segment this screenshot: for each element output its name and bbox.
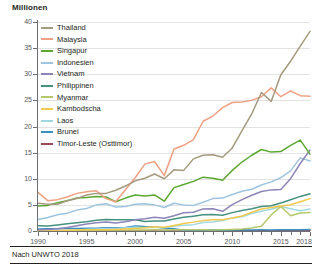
y-tick-mark bbox=[33, 153, 37, 154]
x-tick-label: 2005 bbox=[170, 238, 198, 245]
x-tick-mark bbox=[261, 232, 262, 235]
legend-item[interactable]: Timor-Leste (Osttimor) bbox=[41, 138, 132, 150]
y-tick-mark bbox=[33, 100, 37, 101]
x-tick-mark bbox=[77, 232, 78, 235]
y-tick-label: 10 bbox=[8, 175, 32, 182]
legend-item[interactable]: Philippinen bbox=[41, 80, 132, 92]
legend-color-swatch bbox=[41, 120, 53, 122]
x-tick-mark bbox=[96, 232, 97, 235]
x-tick-mark bbox=[291, 232, 292, 235]
x-tick-mark bbox=[106, 232, 107, 235]
x-tick-mark bbox=[48, 232, 49, 235]
x-tick-mark bbox=[38, 232, 39, 236]
y-tick-label: 20 bbox=[8, 123, 32, 130]
y-tick-mark bbox=[33, 48, 37, 49]
legend-color-swatch bbox=[41, 50, 53, 52]
legend-item-label: Vietnam bbox=[57, 70, 84, 78]
x-tick-mark bbox=[223, 232, 224, 235]
y-tick-mark bbox=[33, 127, 37, 128]
legend-color-swatch bbox=[41, 108, 53, 110]
y-tick-label: 40 bbox=[8, 18, 32, 25]
legend-color-swatch bbox=[41, 73, 53, 75]
x-tick-mark bbox=[310, 232, 311, 236]
y-tick-mark bbox=[33, 22, 37, 23]
x-tick-mark bbox=[281, 232, 282, 236]
legend-item[interactable]: Brunei bbox=[41, 126, 132, 138]
y-tick-mark bbox=[33, 231, 37, 232]
legend-item[interactable]: Myanmar bbox=[41, 92, 132, 104]
source-note: Nach UNWTO 2018 bbox=[12, 250, 79, 259]
x-tick-mark bbox=[116, 232, 117, 235]
x-tick-mark bbox=[193, 232, 194, 235]
x-tick-mark bbox=[135, 232, 136, 236]
y-tick-label: 25 bbox=[8, 96, 32, 103]
y-tick-label: 30 bbox=[8, 70, 32, 77]
chart-legend: ThailandMalaysiaSingapurIndonesienVietna… bbox=[41, 22, 132, 150]
y-axis-line bbox=[37, 20, 38, 231]
x-tick-mark bbox=[145, 232, 146, 235]
legend-color-swatch bbox=[41, 131, 53, 133]
y-tick-label: 35 bbox=[8, 44, 32, 51]
legend-color-swatch bbox=[41, 62, 53, 64]
x-tick-mark bbox=[67, 232, 68, 235]
x-tick-label: 2018 bbox=[290, 238, 318, 245]
legend-color-swatch bbox=[41, 85, 53, 87]
x-tick-mark bbox=[271, 232, 272, 235]
legend-item-label: Kambodscha bbox=[57, 105, 101, 113]
footer-divider-top bbox=[10, 246, 312, 247]
x-tick-mark bbox=[213, 232, 214, 235]
y-tick-label: 0 bbox=[8, 227, 32, 234]
x-tick-mark bbox=[164, 232, 165, 235]
x-tick-mark bbox=[203, 232, 204, 235]
legend-item-label: Brunei bbox=[57, 128, 79, 136]
legend-item[interactable]: Kambodscha bbox=[41, 103, 132, 115]
legend-item[interactable]: Indonesien bbox=[41, 57, 132, 69]
y-tick-label: 15 bbox=[8, 149, 32, 156]
x-tick-mark bbox=[184, 232, 185, 236]
legend-color-swatch bbox=[41, 143, 53, 145]
y-tick-label: 5 bbox=[8, 201, 32, 208]
x-tick-mark bbox=[252, 232, 253, 235]
x-tick-label: 1995 bbox=[73, 238, 101, 245]
legend-color-swatch bbox=[41, 38, 53, 40]
legend-item-label: Thailand bbox=[57, 24, 86, 32]
legend-item-label: Malaysia bbox=[57, 36, 87, 44]
x-tick-label: 1990 bbox=[24, 238, 52, 245]
legend-item[interactable]: Vietnam bbox=[41, 68, 132, 80]
legend-item-label: Laos bbox=[57, 117, 73, 125]
x-tick-mark bbox=[155, 232, 156, 235]
y-tick-mark bbox=[33, 74, 37, 75]
x-tick-mark bbox=[300, 232, 301, 235]
chart-page: Millionen 0510152025303540 1990199520002… bbox=[0, 0, 322, 267]
legend-item-label: Indonesien bbox=[57, 59, 94, 67]
legend-item[interactable]: Laos bbox=[41, 115, 132, 127]
x-tick-mark bbox=[174, 232, 175, 235]
x-tick-mark bbox=[125, 232, 126, 235]
x-tick-mark bbox=[87, 232, 88, 236]
x-tick-mark bbox=[232, 232, 233, 236]
y-axis-title: Millionen bbox=[12, 3, 48, 12]
x-tick-label: 2000 bbox=[121, 238, 149, 245]
legend-item[interactable]: Singapur bbox=[41, 45, 132, 57]
y-tick-mark bbox=[33, 205, 37, 206]
legend-item[interactable]: Malaysia bbox=[41, 34, 132, 46]
legend-item-label: Myanmar bbox=[57, 94, 88, 102]
y-tick-mark bbox=[33, 179, 37, 180]
legend-item-label: Philippinen bbox=[57, 82, 94, 90]
x-tick-label: 2010 bbox=[218, 238, 246, 245]
x-tick-mark bbox=[57, 232, 58, 235]
legend-color-swatch bbox=[41, 96, 53, 98]
legend-item[interactable]: Thailand bbox=[41, 22, 132, 34]
footer-divider-bottom bbox=[10, 263, 312, 264]
legend-color-swatch bbox=[41, 27, 53, 29]
legend-item-label: Singapur bbox=[57, 47, 87, 55]
x-tick-mark bbox=[242, 232, 243, 235]
legend-item-label: Timor-Leste (Osttimor) bbox=[57, 140, 132, 148]
